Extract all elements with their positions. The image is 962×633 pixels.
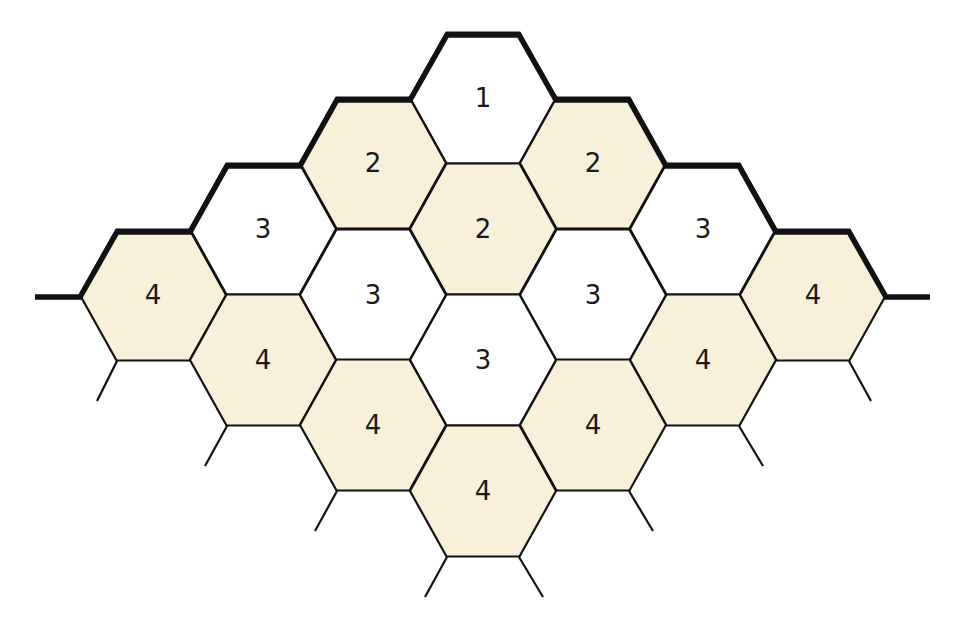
- hex-label: 3: [255, 214, 272, 244]
- hex-label: 2: [475, 214, 492, 244]
- hex-label: 3: [475, 345, 492, 375]
- hex-label: 4: [475, 476, 492, 506]
- edge-stub: [205, 426, 227, 466]
- hex-label: 4: [365, 410, 382, 440]
- edge-stub: [97, 361, 117, 401]
- hex-label: 1: [475, 83, 492, 113]
- hex-label: 3: [585, 280, 602, 310]
- edge-stub: [425, 557, 447, 597]
- hex-label: 4: [255, 345, 272, 375]
- hex-label: 3: [695, 214, 712, 244]
- edge-stub: [315, 491, 337, 531]
- edge-stub: [739, 426, 763, 466]
- hex-cells: 1222333334444444: [80, 33, 886, 557]
- hex-label: 2: [585, 148, 602, 178]
- hex-label: 2: [365, 148, 382, 178]
- hex-label: 4: [145, 280, 162, 310]
- hex-label: 4: [585, 410, 602, 440]
- edge-stub: [849, 361, 871, 401]
- hex-grid-diagram: 1222333334444444: [0, 0, 962, 633]
- edge-stub: [629, 491, 653, 531]
- hex-label: 3: [365, 280, 382, 310]
- edge-stub: [519, 557, 543, 597]
- hex-label: 4: [695, 345, 712, 375]
- hex-label: 4: [805, 280, 822, 310]
